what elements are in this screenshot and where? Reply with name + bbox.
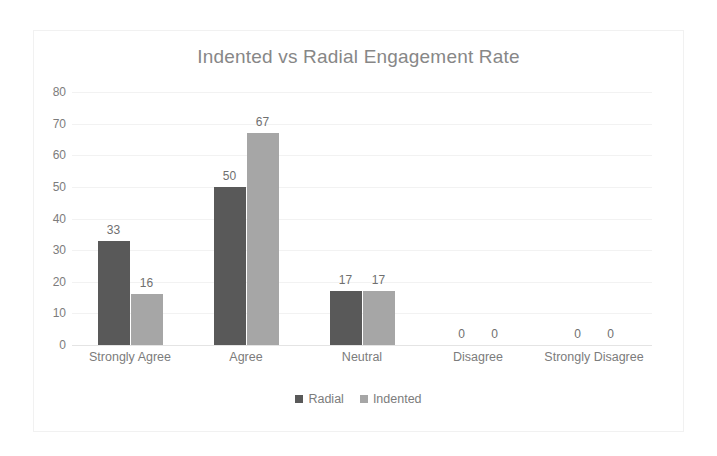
- chart-legend: RadialIndented: [0, 392, 717, 406]
- bar-value-label: 16: [127, 276, 167, 290]
- bar-group: 5067: [214, 92, 279, 345]
- y-axis-tick-label: 70: [53, 117, 66, 131]
- bar-indented[interactable]: [131, 294, 163, 345]
- bar-value-label: 67: [243, 115, 283, 129]
- bar-value-label: 33: [94, 223, 134, 237]
- legend-item-indented[interactable]: Indented: [360, 392, 422, 406]
- legend-item-radial[interactable]: Radial: [295, 392, 343, 406]
- y-axis-tick-label: 60: [53, 148, 66, 162]
- bar-value-label: 17: [359, 273, 399, 287]
- y-axis-tick-label: 30: [53, 243, 66, 257]
- bar-group: 00: [562, 92, 627, 345]
- chart-title: Indented vs Radial Engagement Rate: [0, 46, 717, 68]
- y-axis-tick-label: 40: [53, 212, 66, 226]
- bar-radial[interactable]: [98, 241, 130, 345]
- y-axis-tick-label: 0: [59, 338, 66, 352]
- y-axis: 80706050403020100: [30, 92, 66, 345]
- bar-value-label: 0: [591, 327, 631, 341]
- gridline: [72, 345, 652, 346]
- chart-card: Indented vs Radial Engagement Rate 80706…: [0, 0, 717, 456]
- legend-swatch-icon: [295, 395, 303, 403]
- bar-group: 3316: [98, 92, 163, 345]
- bar-indented[interactable]: [363, 291, 395, 345]
- x-axis-tick-label: Strongly Agree: [89, 350, 171, 364]
- x-axis-tick-label: Agree: [229, 350, 262, 364]
- x-axis: Strongly AgreeAgreeNeutralDisagreeStrong…: [72, 350, 652, 370]
- bar-group: 1717: [330, 92, 395, 345]
- bar-value-label: 0: [475, 327, 515, 341]
- x-axis-tick-label: Strongly Disagree: [544, 350, 643, 364]
- bar-series-container: 3316506717170000: [72, 92, 652, 345]
- x-axis-tick-label: Disagree: [453, 350, 503, 364]
- x-axis-tick-label: Neutral: [342, 350, 382, 364]
- bar-radial[interactable]: [214, 187, 246, 345]
- y-axis-tick-label: 50: [53, 180, 66, 194]
- y-axis-tick-label: 10: [53, 306, 66, 320]
- bar-indented[interactable]: [247, 133, 279, 345]
- y-axis-tick-label: 80: [53, 85, 66, 99]
- plot-area: 3316506717170000: [72, 92, 652, 345]
- y-axis-tick-label: 20: [53, 275, 66, 289]
- bar-value-label: 50: [210, 169, 250, 183]
- bar-radial[interactable]: [330, 291, 362, 345]
- legend-label: Radial: [308, 392, 343, 406]
- legend-swatch-icon: [360, 395, 368, 403]
- bar-group: 00: [446, 92, 511, 345]
- legend-label: Indented: [373, 392, 422, 406]
